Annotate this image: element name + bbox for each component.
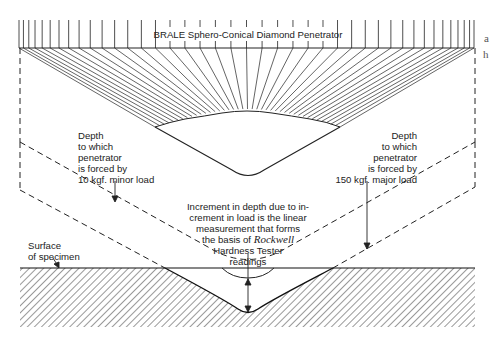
- surface-label: Surface of specimen: [28, 240, 80, 262]
- edge-text-h: h: [483, 48, 489, 60]
- edge-text-a: a: [484, 32, 489, 44]
- major-label-line: 150 kgf. major load: [335, 174, 417, 185]
- minor-load-label: Depth to which penetrator is forced by 1…: [78, 130, 154, 185]
- penetrator-cone: [19, 48, 474, 127]
- major-label-line: Depth: [391, 130, 417, 141]
- surface-label-line: of specimen: [28, 251, 80, 262]
- major-label-line: to which: [382, 141, 417, 152]
- specimen-hatch: [20, 268, 475, 327]
- rockwell-diagram: BRALE Sphero-Conical Diamond Penetrator …: [0, 0, 501, 340]
- increment-label-line: Increment in depth due to in-: [187, 201, 309, 212]
- major-load-arrow: [364, 181, 370, 249]
- increment-label-line: readings: [230, 256, 267, 267]
- minor-label-line: penetrator: [78, 152, 123, 163]
- major-label-line: penetrator: [373, 152, 418, 163]
- major-load-label: Depth to which penetrator is forced by 1…: [335, 130, 417, 185]
- major-label-line: is forced by: [368, 163, 417, 174]
- minor-label-line: to which: [78, 141, 113, 152]
- minor-label-line: is forced by: [78, 163, 127, 174]
- increment-label: Increment in depth due to in- crement in…: [187, 201, 309, 267]
- penetrator-title: BRALE Sphero-Conical Diamond Penetrator: [154, 29, 344, 40]
- increment-label-line: the basis of Rockwell: [202, 233, 294, 245]
- rockwell-italic: Rockwell: [253, 233, 294, 245]
- minor-label-line: Depth: [78, 130, 104, 141]
- penetrator-tip-profile: [155, 127, 340, 176]
- penetrator-tip-edge: [155, 111, 340, 127]
- increment-label-line: crement in load is the linear: [189, 212, 307, 223]
- surface-label-line: Surface: [28, 240, 61, 251]
- minor-label-line: 10 kgf. minor load: [78, 174, 154, 185]
- increment-label-line: Hardness Tester: [213, 245, 283, 256]
- increment-label-basis: the basis of: [202, 234, 254, 245]
